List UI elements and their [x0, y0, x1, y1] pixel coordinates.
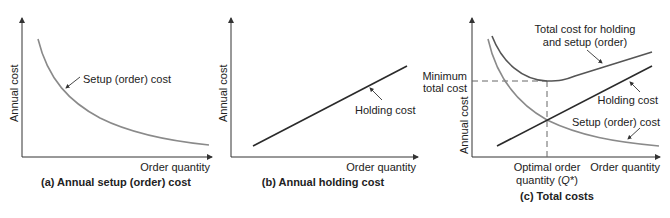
setup-cost-curve [38, 39, 209, 145]
caption-a: (a) Annual setup (order) cost [41, 176, 191, 188]
holding-cost-pointer-arrow [370, 88, 382, 100]
eoq-cost-diagram: Setup (order) cost Annual cost Order qua… [0, 0, 670, 218]
holding-cost-label: Holding cost [355, 104, 416, 116]
panel-c: Total cost for holding and setup (order)… [422, 18, 660, 202]
min-total-cost-label-line1: Minimum [422, 70, 467, 82]
optimal-quantity-label-line2: quantity (Q*) [516, 174, 578, 186]
total-cost-label-line2: and setup (order) [543, 36, 627, 48]
holding-cost-pointer-arrow [630, 82, 640, 92]
setup-cost-pointer-arrow [66, 77, 80, 88]
x-axis-label: Order quantity [590, 161, 660, 173]
setup-cost-label: Setup (order) cost [83, 73, 171, 85]
panel-b: Holding cost Annual cost Order quantity … [217, 18, 418, 188]
holding-cost-line [497, 66, 652, 146]
optimal-quantity-label-line1: Optimal order [514, 161, 581, 173]
caption-b: (b) Annual holding cost [262, 176, 385, 188]
setup-cost-label: Setup (order) cost [572, 116, 660, 128]
min-total-cost-label-line2: total cost [423, 82, 467, 94]
panel-a: Setup (order) cost Annual cost Order qua… [8, 18, 212, 188]
holding-cost-label: Holding cost [597, 94, 658, 106]
total-cost-pointer-arrow [587, 50, 602, 63]
x-axis-label: Order quantity [140, 161, 210, 173]
y-axis-label: Annual cost [458, 97, 470, 154]
y-axis-label: Annual cost [8, 65, 20, 122]
total-cost-label-line1: Total cost for holding [535, 23, 636, 35]
setup-cost-curve [488, 39, 659, 146]
y-axis-label: Annual cost [217, 65, 229, 122]
setup-cost-pointer-arrow [628, 128, 640, 139]
caption-c: (c) Total costs [520, 190, 594, 202]
x-axis-label: Order quantity [346, 161, 416, 173]
